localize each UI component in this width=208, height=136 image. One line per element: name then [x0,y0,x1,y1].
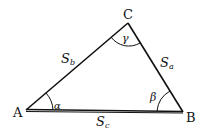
angle-label-beta: β [149,91,156,104]
side-c [26,110,183,112]
angle-label-alpha: α [54,100,61,111]
vertex-label-a: A [12,105,23,120]
side-label-b: Sb [61,51,75,67]
side-b [26,23,128,110]
vertex-label-c: C [123,7,133,22]
side-label-c: Sc [96,114,110,130]
side-label-a: Sa [160,55,174,71]
angle-arc-a [46,93,53,110]
angle-arc-b [157,91,170,111]
angle-label-gamma: γ [122,32,129,45]
triangle-diagram: A B C Sb Sa Sc α β γ [0,0,208,136]
vertex-label-b: B [186,110,196,125]
